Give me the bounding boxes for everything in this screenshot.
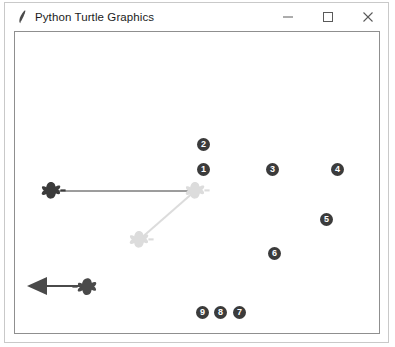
step-badge-1: 1: [197, 163, 210, 176]
step-badge-3: 3: [266, 163, 279, 176]
window-title: Python Turtle Graphics: [35, 11, 154, 23]
step-badge-5: 5: [320, 213, 333, 226]
turtle-cursor-dark-bottom: [72, 278, 96, 295]
title-bar[interactable]: Python Turtle Graphics: [5, 3, 388, 31]
step-badge-7: 7: [233, 306, 246, 319]
turtle-canvas[interactable]: [14, 31, 380, 334]
path-diagonal: [139, 191, 195, 240]
step-badge-8: 8: [214, 306, 227, 319]
maximize-button[interactable]: [308, 4, 348, 31]
minimize-button[interactable]: [268, 4, 308, 31]
close-button[interactable]: [348, 4, 388, 31]
turtle-cursor-dark-left: [42, 182, 66, 199]
arrow-cursor-bottom: [27, 277, 47, 295]
step-badge-2: 2: [197, 138, 210, 151]
turtle-graphics-window: Python Turtle Graphics: [4, 2, 389, 343]
step-badge-6: 6: [268, 247, 281, 260]
step-badge-4: 4: [331, 163, 344, 176]
python-feather-icon: [13, 8, 31, 26]
turtle-drawing-surface: [15, 32, 379, 333]
step-badge-9: 9: [196, 306, 209, 319]
window-controls: [268, 3, 388, 31]
turtle-cursor-light-mid: [130, 231, 154, 248]
